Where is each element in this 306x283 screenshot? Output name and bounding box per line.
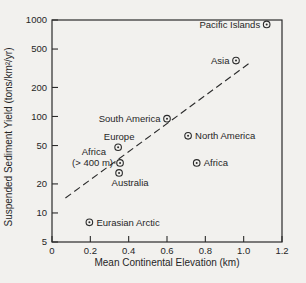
y-tick-label: 5 [42,236,47,247]
x-tick-label: 0.8 [199,245,212,256]
data-point-label: Australia [112,177,150,188]
data-point-label: Asia [211,55,230,66]
x-tick-label: 0.2 [84,245,97,256]
data-point-dot [119,162,121,164]
data-point-label: (> 400 m) [72,157,113,168]
data-point-label: Pacific Islands [199,19,260,30]
data-point-dot [118,172,120,174]
y-tick-label: 500 [31,43,47,54]
sediment-yield-chart: 1000500200100502010500.20.40.60.81.01.2M… [0,0,306,283]
data-point-label: Eurasian Arctic [96,217,160,228]
x-axis-title: Mean Continental Elevation (km) [94,257,239,268]
x-tick-label: 0.6 [160,245,173,256]
y-tick-label: 100 [31,111,47,122]
y-tick-label: 10 [36,207,47,218]
x-tick-label: 0.4 [122,245,135,256]
data-point-label: Africa [82,146,107,157]
data-point-dot [166,118,168,120]
data-point-label: Europe [104,131,135,142]
data-point-dot [235,60,237,62]
y-tick-label: 200 [31,82,47,93]
sediment-yield-figure: 1000500200100502010500.20.40.60.81.01.2M… [0,0,306,283]
x-tick-label: 0 [49,245,54,256]
x-tick-label: 1.0 [237,245,250,256]
y-tick-label: 50 [36,140,47,151]
data-point-dot [117,146,119,148]
data-point-dot [187,135,189,137]
x-tick-label: 1.2 [275,245,288,256]
data-point-label: South America [99,113,161,124]
y-tick-label: 20 [36,178,47,189]
data-point-dot [196,162,198,164]
data-point-dot [266,23,268,25]
y-tick-label: 1000 [26,14,47,25]
data-point-label: Africa [204,157,229,168]
data-point-dot [88,221,90,223]
y-axis-title: Suspended Sediment Yield (tons/km²/yr) [3,48,14,227]
data-point-label: North America [195,130,256,141]
